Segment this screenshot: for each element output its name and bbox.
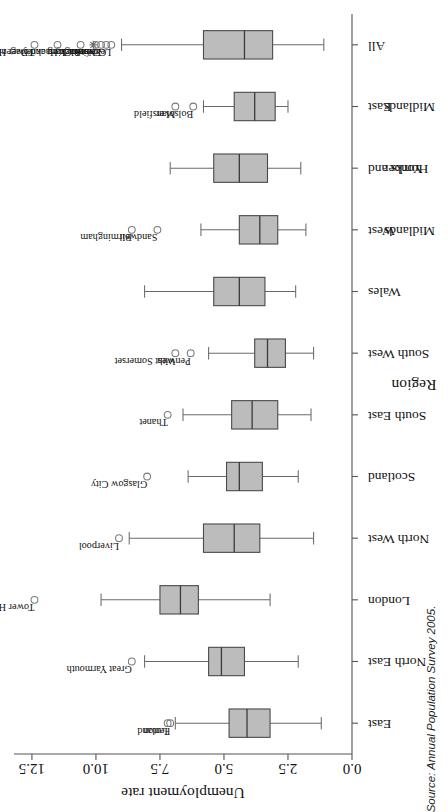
box bbox=[255, 339, 286, 367]
outlier-point bbox=[164, 411, 171, 418]
outlier-label: Liverpool bbox=[79, 541, 119, 552]
value-axis-tick-label: 7.5 bbox=[151, 761, 170, 777]
value-axis-tick-label: 5.0 bbox=[215, 761, 234, 777]
outlier-label: Tower Hamlets bbox=[0, 47, 34, 58]
outlier-point bbox=[128, 658, 135, 665]
box bbox=[203, 524, 259, 552]
category-axis-tick-label: Midlands bbox=[384, 224, 435, 239]
box bbox=[239, 216, 277, 244]
category-axis-tick-label: All bbox=[368, 39, 386, 54]
category-axis-tick-label: Midlands bbox=[384, 100, 435, 115]
box bbox=[229, 709, 270, 737]
outlier-point bbox=[154, 226, 161, 233]
outlier-point bbox=[172, 350, 179, 357]
box bbox=[209, 647, 245, 675]
outlier-point bbox=[31, 41, 38, 48]
category-axis-tick-label: London bbox=[368, 594, 410, 609]
outlier-point bbox=[190, 103, 197, 110]
outlier-point bbox=[128, 226, 135, 233]
outlier-point bbox=[144, 473, 151, 480]
outlier-label: West Somerset bbox=[115, 356, 176, 367]
category-axis-tick-label: South East bbox=[368, 409, 426, 424]
source-note-holder: Source: Annual Population Survey 2005. bbox=[416, 614, 446, 804]
category-axis-tick-label: Wales bbox=[368, 285, 401, 300]
value-axis-title: Unemployment rate bbox=[121, 785, 245, 802]
outlier-point bbox=[172, 103, 179, 110]
category-axis-tick-label: Scotland bbox=[368, 470, 415, 485]
box bbox=[232, 401, 278, 429]
category-axis-tick-label: South West bbox=[368, 347, 430, 362]
outlier-point bbox=[116, 535, 123, 542]
category-axis-tick-label: East bbox=[368, 717, 391, 732]
value-axis-tick-label: 12.5 bbox=[19, 761, 45, 777]
outlier-label: Great Yarmouth bbox=[67, 664, 132, 675]
category-axis-title: Region bbox=[391, 377, 436, 394]
value-axis-tick-label: 0.0 bbox=[343, 761, 362, 777]
outlier-label: Thanet bbox=[139, 417, 167, 428]
outlier-point bbox=[187, 350, 194, 357]
extreme-outlier-marker bbox=[89, 41, 97, 49]
outlier-point bbox=[31, 596, 38, 603]
source-note: Source: Annual Population Survey 2005. bbox=[425, 606, 437, 812]
value-axis-tick-label: 10.0 bbox=[83, 761, 109, 777]
outlier-label: Tower Hamlets bbox=[0, 602, 34, 613]
category-axis-tick-label: North West bbox=[368, 532, 430, 547]
outlier-point bbox=[54, 41, 61, 48]
value-axis-tick-label: 2.5 bbox=[279, 761, 298, 777]
outlier-label: Birmingham bbox=[80, 232, 132, 243]
outlier-label: Glasgow City bbox=[90, 479, 147, 490]
box bbox=[160, 586, 198, 614]
outlier-point bbox=[77, 41, 84, 48]
category-axis-tick-label: Humber bbox=[384, 162, 429, 177]
box bbox=[214, 154, 268, 182]
box bbox=[203, 31, 272, 59]
outlier-label: Mansfield bbox=[134, 109, 175, 120]
box bbox=[227, 462, 263, 490]
outlier-label: Luton bbox=[143, 726, 167, 737]
